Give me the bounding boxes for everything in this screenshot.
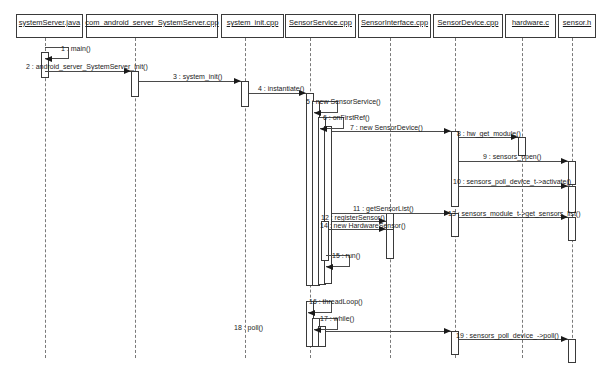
message-arrowhead-9 [561,158,568,164]
lifeline-sensorinterface_cpp [390,38,391,358]
participant-label: SensorDevice.cpp [438,18,499,27]
participant-label: sensor.h [563,18,591,27]
participant-box-systemserver_java[interactable]: systemServer.java [16,14,83,38]
participant-box-com_android_server[interactable]: com_android_server_SystemServer.cpp [86,14,218,38]
message-label-10: 10 : sensors_poll_device_t->activate() [453,178,571,186]
message-label-6: 6 : onFirstRef() [323,114,370,122]
sequence-diagram-canvas: systemServer.javacom_android_server_Syst… [0,0,596,374]
message-line-3 [139,81,241,82]
message-arrowhead-6 [320,126,327,132]
message-label-9: 9 : sensors_open() [483,153,541,161]
message-label-19: 19 : sensors_poll_device_->poll() [456,332,559,340]
message-arrowhead-19 [561,336,568,342]
participant-box-hardware_c[interactable]: hardware.c [505,14,556,38]
participant-label: systemServer.java [19,18,80,27]
message-label-8: 8 : hw_get_module() [457,130,521,138]
message-label-5: 5 : new SensorService() [306,98,381,106]
participant-label: SensorInterface.cpp [361,18,428,27]
message-label-16: 16 : threadLoop() [309,298,363,306]
message-arrowhead-16 [308,310,315,316]
message-label-11: 11 : getSensorList() [353,205,414,213]
participant-box-sensorinterface_cpp[interactable]: SensorInterface.cpp [358,14,431,38]
lifeline-systemserver_java [45,38,46,358]
message-arrowhead-1 [45,56,52,62]
message-arrowhead-5 [314,110,321,116]
message-label-2: 2 : android_server_SystemServer_init() [26,63,148,71]
participant-box-system_init_cpp[interactable]: system_init.cpp [221,14,284,38]
message-line-4 [249,93,306,94]
message-label-1: 1 : main() [61,45,91,53]
activation-bar [386,229,394,259]
activation-bar [568,217,576,241]
message-arrowhead-17 [314,327,321,333]
message-arrowhead-15 [326,264,333,270]
participant-label: SensorService.cpp [289,18,352,27]
message-label-14: 14 : new HardwareSensor() [320,222,406,230]
message-arrowhead-18 [444,328,451,334]
participant-box-sensordevice_cpp[interactable]: SensorDevice.cpp [433,14,503,38]
participant-box-sensorservice_cpp[interactable]: SensorService.cpp [285,14,356,38]
participant-label: com_android_server_SystemServer.cpp [85,18,218,27]
message-line-2 [45,71,131,72]
activation-bar [131,71,139,97]
lifeline-hardware_c [522,38,523,358]
message-arrowhead-7 [444,128,451,134]
message-line-18 [326,331,451,332]
activation-bar [568,339,576,363]
message-line-10 [459,186,568,187]
activation-bar [568,186,576,213]
message-arrowhead-3 [234,78,241,84]
activation-bar [241,81,249,107]
participant-label: system_init.cpp [227,18,279,27]
message-label-12: 12 : registerSensor() [321,214,385,222]
message-label-4: 4 : instantiate() [258,85,304,93]
message-line-9 [459,161,568,162]
participant-label: hardware.c [512,18,549,27]
participant-box-sensor_h[interactable]: sensor.h [558,14,596,38]
message-label-17: 17 : while() [320,315,354,323]
message-label-3: 3 : system_init() [173,73,222,81]
activation-bar [451,131,459,207]
message-label-13: 13 : sensors_module_t->get_sensors_list(… [448,210,580,218]
message-label-7: 7 : new SensorDevice() [350,124,423,132]
message-label-15: 15 : run() [332,252,360,260]
message-label-18: 18 : poll() [234,324,263,332]
